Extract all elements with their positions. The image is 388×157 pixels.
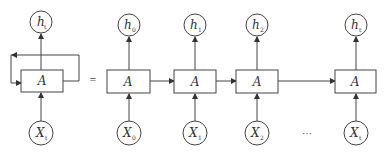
output-main-0: h	[124, 18, 132, 32]
rolled-rnn: h t A X t	[11, 11, 79, 145]
unrolled-step-t: h t A X t	[335, 14, 376, 145]
unrolled-step-2: h 2 A X 2	[236, 14, 278, 145]
input-sub-1: 1	[198, 134, 202, 141]
ellipsis: ···	[302, 128, 312, 139]
output-main-1: h	[190, 18, 198, 32]
rnn-diagram: h t A X t = h 0 A	[0, 0, 388, 157]
input-sub-0: 0	[132, 134, 136, 141]
cell-label-t: A	[350, 75, 360, 89]
output-sub-0: 0	[132, 26, 136, 33]
cell-label-1: A	[190, 75, 200, 89]
unrolled-step-0: h 0 A X 0	[107, 14, 150, 145]
rolled-input-node: X t	[29, 121, 53, 145]
equals-sign: =	[90, 73, 97, 87]
output-main-2: h	[252, 18, 260, 32]
output-sub-1: 1	[198, 26, 202, 33]
input-sub-2: 2	[260, 134, 264, 141]
rolled-input-main: X	[35, 126, 45, 140]
unrolled-step-1: h 1 A X 1	[174, 14, 216, 145]
rolled-cell: A	[21, 70, 63, 92]
cell-label-2: A	[252, 75, 262, 89]
cell-label-0: A	[123, 75, 133, 89]
input-main-2: X	[250, 126, 260, 140]
input-main-0: X	[122, 126, 132, 140]
rolled-output-node: h t	[30, 11, 52, 33]
input-main-1: X	[188, 126, 198, 140]
recurrent-loop-return	[11, 55, 21, 83]
rolled-cell-label: A	[37, 74, 47, 88]
output-sub-2: 2	[260, 26, 264, 33]
input-main-t: X	[349, 126, 359, 140]
output-main-t: h	[351, 18, 359, 32]
